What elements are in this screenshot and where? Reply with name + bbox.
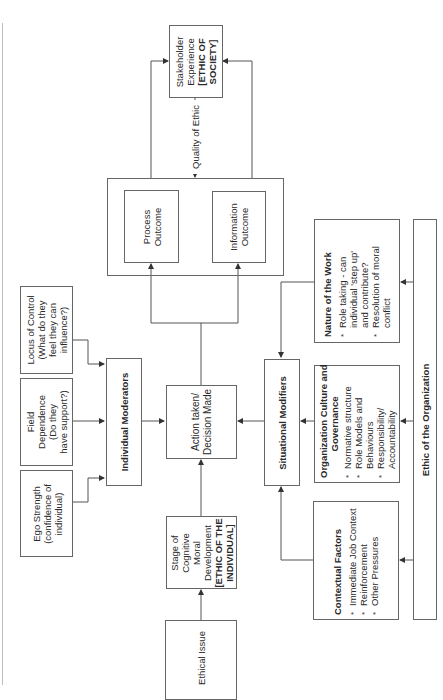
ethical-issue-box: Ethical Issue: [165, 620, 237, 700]
list-item: Resolution of moral: [370, 225, 381, 328]
list-item: Other Pressures: [369, 507, 380, 606]
text-line: individual): [52, 484, 63, 544]
ethic-of-society-label-1: [ETHIC OF: [196, 36, 207, 87]
ethic-of-individual-label-2: INDIVIDUAL]: [224, 518, 235, 587]
text-line: (What do they: [36, 295, 47, 364]
text-line: Dependence: [36, 390, 47, 453]
ethic-of-society-label-2: SOCIETY]: [207, 36, 218, 87]
stakeholder-label: Stakeholder: [174, 36, 185, 87]
stakeholder-experience-box: Stakeholder Experience [ETHIC OF SOCIETY…: [169, 25, 223, 98]
situational-modifiers-box: Situational Modifiers: [264, 359, 300, 486]
field-dependence-box: Field Dependence (Do they have support?): [20, 378, 73, 466]
quality-of-ethic-label-bg: Quality of Ethic: [188, 100, 202, 174]
text-line: influence?): [58, 295, 69, 364]
locus-of-control-box: Locus of Control (What do they feel they…: [20, 286, 73, 374]
stage-of-cognitive-moral-development-box: Stage of Cognitive Moral Development [ET…: [166, 516, 237, 589]
ethical-issue-label: Ethical Issue: [196, 632, 207, 686]
text-line: (Do they: [47, 390, 58, 453]
information-label: Information: [228, 203, 239, 251]
text-line: (confidence of: [41, 484, 52, 544]
list-item-cont: conflict: [381, 225, 392, 328]
text-line: Field: [25, 390, 36, 453]
contextual-factors-title: Contextual Factors: [332, 507, 343, 615]
list-item: Immediate Job Context: [347, 507, 358, 606]
individual-moderators-box: Individual Moderators: [106, 358, 142, 486]
org-culture-title-1: Organization Culture and: [318, 370, 329, 478]
ethic-of-organization-label: Ethic of the Organization: [420, 363, 431, 475]
list-item-cont: and contribute?: [359, 225, 370, 328]
organization-culture-box: Organization Culture and Governance Norm…: [314, 365, 400, 483]
text-line: Stage of: [169, 518, 180, 587]
experience-label: Experience: [185, 36, 196, 87]
quality-of-ethic-label: Quality of Ethic: [190, 105, 201, 169]
list-item-cont: individual 'step up': [348, 225, 359, 328]
text-line: Cognitive: [180, 518, 191, 587]
org-culture-title-2: Governance: [329, 370, 340, 478]
ego-strength-box: Ego Strength (confidence of individual): [20, 470, 73, 557]
list-item-cont: Behaviours: [364, 370, 375, 469]
list-item: Responsibility/: [375, 370, 386, 469]
nature-of-work-title: Nature of the Work: [322, 225, 333, 337]
contextual-factors-list: Immediate Job Context Reinforcement Othe…: [347, 507, 380, 615]
nature-of-work-box: Nature of the Work Role taking - can ind…: [314, 219, 400, 343]
text-line: Ego Strength: [30, 484, 41, 544]
information-outcome-box: Information Outcome: [212, 191, 266, 263]
outcome-label: Outcome: [152, 207, 163, 246]
process-outcome-box: Process Outcome: [124, 190, 179, 263]
org-culture-list: Normative structure Role Models and Beha…: [342, 370, 397, 478]
list-item: Normative structure: [342, 370, 353, 469]
contextual-factors-box: Contextual Factors Immediate Job Context…: [313, 501, 399, 620]
ethic-of-individual-label-1: [ETHIC OF THE: [213, 518, 224, 587]
text-line: Locus of Control: [25, 295, 36, 364]
situational-modifiers-label: Situational Modifiers: [277, 376, 288, 469]
individual-moderators-label: Individual Moderators: [119, 373, 130, 472]
list-item: Role Models and: [353, 370, 364, 469]
process-label: Process: [141, 207, 152, 246]
text-line: have support?): [58, 390, 69, 453]
text-line: Development: [202, 518, 213, 587]
text-line: Decision Made: [202, 389, 214, 455]
nature-of-work-list: Role taking - can individual 'step up' a…: [337, 225, 392, 337]
list-item: Role taking - can: [337, 225, 348, 328]
text-line: Moral: [191, 518, 202, 587]
text-line: Action taken/: [190, 389, 202, 455]
text-line: feel they can: [47, 295, 58, 364]
list-item: Reinforcement: [358, 507, 369, 606]
list-item-cont: Accountability: [386, 370, 397, 469]
action-taken-box: Action taken/ Decision Made: [166, 385, 237, 459]
outcome-label: Outcome: [239, 203, 250, 251]
ethic-of-organization-box: Ethic of the Organization: [413, 219, 437, 620]
